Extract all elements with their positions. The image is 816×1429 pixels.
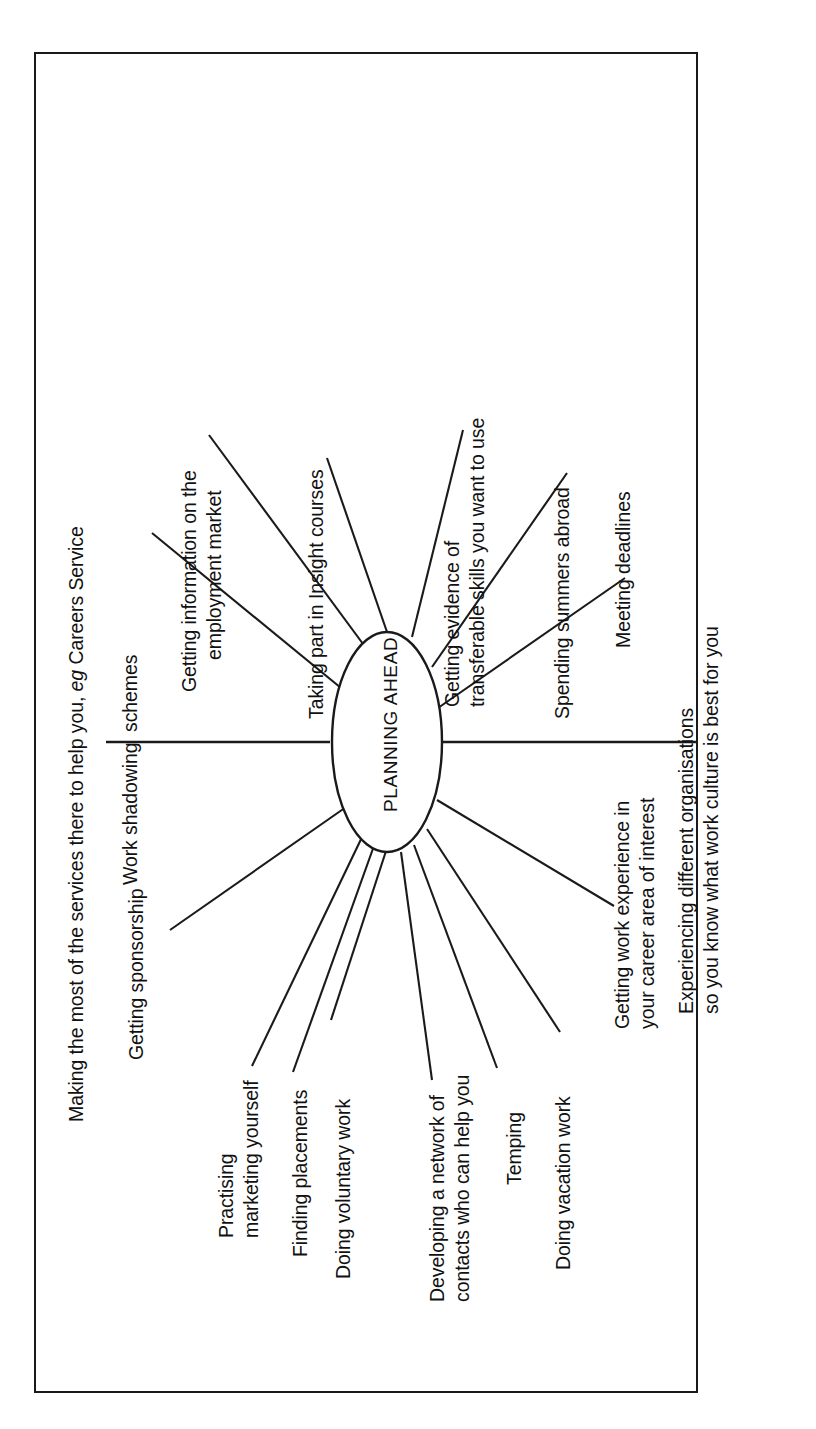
connector-work-experience [437, 800, 614, 906]
label-temping: Temping [502, 1112, 527, 1185]
label-work-shadowing: Work shadowing schemes [118, 655, 143, 885]
connector-sponsorship [170, 805, 349, 930]
label-careers-service: Making the most of the services there to… [64, 526, 89, 1122]
label-summers-abroad-text: Spending summers abroad [551, 487, 573, 719]
label-marketing-yourself: Practisingmarketing yourself [214, 1080, 264, 1238]
label-work-experience-line1: Getting work experience in [611, 801, 633, 1029]
label-different-organisations: Experiencing different organisationsso y… [674, 626, 724, 1014]
label-finding-placements: Finding placements [288, 1090, 313, 1257]
label-meeting-deadlines-text: Meeting deadlines [612, 491, 634, 648]
connector-employment-market [209, 435, 366, 648]
label-transferable-skills-line1: Getting evidence of [441, 541, 463, 707]
label-voluntary-work: Doing voluntary work [331, 1099, 356, 1279]
connector-voluntary-work [331, 851, 386, 1020]
label-sponsorship: Getting sponsorship [124, 888, 149, 1060]
label-insight-courses: Taking part in Insight courses [304, 469, 329, 719]
label-work-experience-line2: your career area of interest [636, 798, 658, 1029]
label-employment-market-line1: Getting information on the [178, 470, 200, 692]
label-vacation-work: Doing vacation work [551, 1096, 576, 1270]
center-node-label: PLANNING AHEAD [380, 637, 402, 812]
connector-vacation-work [427, 829, 560, 1032]
label-insight-courses-text: Taking part in Insight courses [305, 469, 327, 719]
label-work-experience: Getting work experience inyour career ar… [610, 798, 660, 1029]
label-voluntary-work-text: Doing voluntary work [332, 1099, 354, 1279]
diagram-page: PLANNING AHEAD Making the most of the se… [0, 0, 816, 1429]
label-careers-service-eg: eg [65, 670, 87, 692]
label-network-contacts-line1: Developing a network of [426, 1095, 448, 1302]
label-marketing-yourself-line1: Practising [215, 1153, 237, 1238]
label-employment-market-line2: employment market [202, 490, 227, 660]
label-network-contacts: Developing a network ofcontacts who can … [425, 1075, 475, 1302]
label-network-contacts-line2: contacts who can help you [451, 1075, 473, 1302]
label-summers-abroad: Spending summers abroad [550, 487, 575, 719]
label-finding-placements-text: Finding placements [289, 1090, 311, 1257]
label-transferable-skills-line2: transferable skills you want to use [466, 418, 488, 707]
connector-network-contacts [401, 852, 432, 1080]
label-employment-market: Getting information on theemployment mar… [177, 470, 227, 692]
label-work-shadowing-text: Work shadowing schemes [119, 655, 141, 885]
label-temping-text: Temping [503, 1112, 525, 1185]
label-vacation-work-text: Doing vacation work [552, 1096, 574, 1270]
label-careers-service-text-a: Making the most of the services there to… [65, 691, 87, 1122]
label-marketing-yourself-line2: marketing yourself [240, 1080, 262, 1238]
label-meeting-deadlines: Meeting deadlines [611, 491, 636, 648]
label-different-organisations-line2: so you know what work culture is best fo… [700, 626, 722, 1014]
label-different-organisations-line1: Experiencing different organisations [675, 708, 697, 1014]
label-transferable-skills: Getting evidence oftransferable skills y… [440, 418, 490, 707]
label-sponsorship-text: Getting sponsorship [125, 888, 147, 1060]
label-careers-service-text-b: Careers Service [65, 526, 87, 670]
